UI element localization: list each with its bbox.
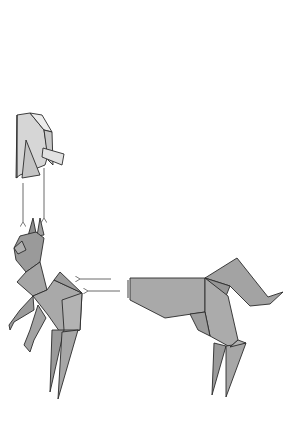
origami-diagram [0,0,299,427]
rearing-animal [9,218,82,399]
left-arrows [80,279,120,291]
folded-flap-detail [16,113,64,178]
diagram-svg [0,0,299,427]
hindquarters-model [128,258,283,397]
